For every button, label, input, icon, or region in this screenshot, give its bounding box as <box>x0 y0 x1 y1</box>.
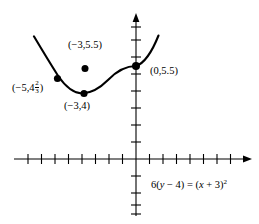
point-marker-vertex <box>80 90 87 97</box>
x-axis <box>14 154 252 164</box>
mixed-fraction-two-thirds: 23 <box>35 80 40 95</box>
equation-rhs-rest: + 3) <box>204 179 224 190</box>
equation-exponent: 2 <box>224 178 228 186</box>
point-marker-y-intercept <box>132 62 140 70</box>
equation-lhs-rest: − 4) = ( <box>164 179 199 190</box>
point-label-vertex: (−3,4) <box>64 101 90 112</box>
fraction-denominator: 3 <box>35 88 40 95</box>
equation-label: 6(y − 4) = (x + 3)2 <box>151 180 227 191</box>
point-label-left-suffix: ) <box>40 82 44 93</box>
equation-lhs-prefix: 6( <box>151 179 160 190</box>
point-label-above-vertex: (−3,5.5) <box>68 40 102 51</box>
parabola-figure: (−3,5.5) (0,5.5) (−5,423) (−3,4) 6(y − 4… <box>0 0 259 224</box>
point-marker-left <box>54 75 61 82</box>
y-axis <box>131 13 141 216</box>
point-label-left: (−5,423) <box>12 80 43 95</box>
point-marker-above-vertex <box>82 65 89 72</box>
point-label-left-prefix: (−5,4 <box>12 82 35 93</box>
point-label-y-intercept: (0,5.5) <box>150 66 178 77</box>
